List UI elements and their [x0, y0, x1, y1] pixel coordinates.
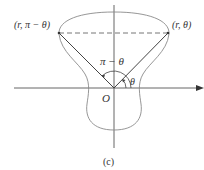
axis-arrow-icon — [196, 85, 204, 91]
origin-label: O — [102, 93, 110, 104]
theta-arc-arrow-icon — [122, 79, 126, 83]
supplementary-angle-label: π − θ — [100, 56, 124, 67]
figure-caption: (c) — [103, 157, 114, 167]
polar-symmetry-diagram: (r, π − θ) (r, θ) π − θ θ O (c) — [0, 0, 204, 170]
left-point-marker — [58, 32, 61, 35]
right-point-marker — [167, 32, 170, 35]
angle-theta-label: θ — [130, 77, 135, 87]
left-point-label: (r, π − θ) — [14, 20, 50, 30]
right-point-label: (r, θ) — [172, 20, 191, 30]
